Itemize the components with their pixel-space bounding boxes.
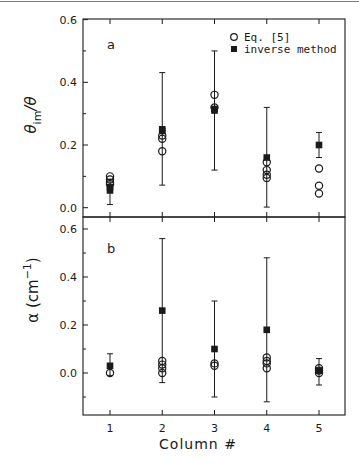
y-tick-label: 0.6	[60, 14, 78, 27]
data-point-square-icon	[211, 107, 218, 114]
x-tick-label: 2	[159, 422, 166, 435]
data-point-square-icon	[263, 327, 270, 334]
legend-square-icon	[231, 46, 237, 52]
data-point-square-icon	[211, 346, 218, 353]
data-point-circle-icon	[315, 182, 322, 189]
x-tick-label: 4	[263, 422, 270, 435]
data-point-circle-icon	[315, 165, 322, 172]
x-axis-title: Column #	[159, 436, 237, 452]
panel-b: 0.00.20.40.6bα (cm−1)	[21, 217, 345, 415]
y-tick-label: 0.0	[60, 202, 78, 215]
data-point-circle-icon	[315, 190, 322, 197]
y-tick-label: 0.0	[60, 367, 78, 380]
data-point-square-icon	[159, 128, 166, 135]
data-point-square-icon	[107, 187, 114, 194]
y-tick-label: 0.2	[60, 139, 78, 152]
y-tick-label: 0.2	[60, 319, 78, 332]
y-tick-label: 0.4	[60, 271, 78, 284]
data-point-square-icon	[107, 363, 114, 370]
legend: Eq. [5] inverse method	[231, 31, 337, 56]
data-point-square-icon	[316, 367, 323, 374]
legend-label-inverse-method: inverse method	[244, 43, 337, 56]
data-point-square-icon	[263, 154, 270, 161]
y-tick-label: 0.6	[60, 223, 78, 236]
data-point-square-icon	[316, 142, 323, 149]
x-tick-label: 5	[316, 422, 323, 435]
panel-label: a	[107, 37, 115, 52]
figure: 0.00.20.40.6aθim/θ 0.00.20.40.6bα (cm−1)…	[0, 0, 359, 472]
legend-circle-icon	[231, 34, 238, 41]
y-axis-title: α (cm−1)	[21, 257, 42, 322]
x-tick-label: 1	[107, 422, 114, 435]
y-axis-title: θim/θ	[22, 96, 44, 133]
y-tick-label: 0.4	[60, 76, 78, 89]
data-point-square-icon	[159, 307, 166, 314]
x-tick-label: 3	[211, 422, 218, 435]
panel-label: b	[107, 241, 115, 256]
x-axis: 12345	[107, 422, 323, 435]
